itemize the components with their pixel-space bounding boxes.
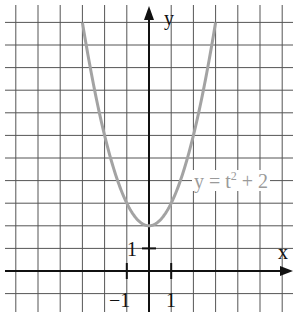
x-axis-label: x (278, 242, 288, 262)
function-graph (0, 0, 293, 325)
x-tick-label-neg1: −1 (109, 290, 130, 310)
y-axis-arrow-icon (144, 6, 154, 20)
y-axis-label: y (164, 8, 174, 28)
x-axis-arrow-icon (280, 266, 293, 276)
x-tick-label-1: 1 (166, 290, 176, 310)
curve-label-base: y = t (194, 170, 231, 192)
curve-label-tail: + 2 (237, 170, 268, 192)
y-tick-label-1: 1 (127, 239, 137, 259)
curve-label: y = t2 + 2 (192, 170, 270, 191)
